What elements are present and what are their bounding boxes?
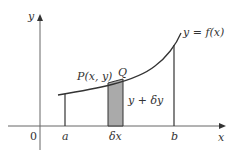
strip-height-label: y + δy: [127, 94, 164, 107]
y-axis-arrow-icon: [37, 14, 43, 21]
delta-x-strip: [108, 79, 123, 126]
point-q-label: Q: [118, 66, 127, 79]
curve-label: y = f(x): [182, 26, 224, 39]
tick-label-b: b: [171, 130, 178, 143]
tick-label-dx: δx: [109, 130, 123, 143]
x-axis-label: x: [218, 131, 225, 144]
origin-label: 0: [30, 130, 37, 143]
x-axis-arrow-icon: [219, 123, 226, 129]
y-axis-label: y: [27, 10, 35, 23]
area-under-curve-diagram: y x 0 a b δx y = f(x) P(x, y) Q y + δy: [0, 0, 231, 158]
point-p-label: P(x, y): [76, 70, 112, 83]
tick-label-a: a: [62, 130, 69, 143]
